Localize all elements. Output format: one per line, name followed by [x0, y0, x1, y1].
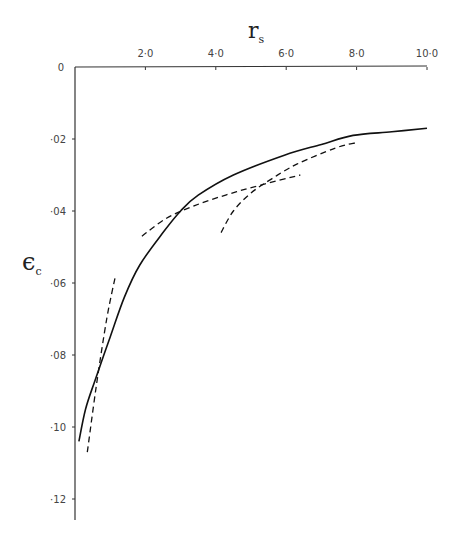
y-tick-label: ·04 — [50, 206, 66, 217]
x-tick-label: 6·0 — [278, 48, 294, 59]
plot-series — [79, 128, 427, 452]
x-tick-label: 2·0 — [137, 48, 153, 59]
x-tick-label: 8·0 — [349, 48, 365, 59]
y-tick-label: ·06 — [50, 278, 66, 289]
x-axis-title: rs — [248, 18, 265, 46]
y-tick-label: ·10 — [50, 422, 66, 433]
dashed-curve — [221, 143, 357, 233]
y-axis-title: ϵc — [22, 248, 42, 278]
x-axis: 2·04·06·08·010·0 — [75, 48, 438, 70]
y-tick-label: ·08 — [50, 350, 66, 361]
x-tick-label: 10·0 — [416, 48, 438, 59]
y-tick-label: ·02 — [50, 134, 66, 145]
chart: 2·04·06·08·010·0 0·02·04·06·08·10·12 rs … — [0, 0, 458, 544]
dashed-curve — [142, 175, 300, 236]
y-tick-label: ·12 — [50, 494, 66, 505]
solid-curve — [79, 128, 427, 441]
y-tick-label: 0 — [58, 62, 64, 73]
y-axis: 0·02·04·06·08·10·12 — [50, 62, 75, 520]
x-tick-label: 4·0 — [208, 48, 224, 59]
